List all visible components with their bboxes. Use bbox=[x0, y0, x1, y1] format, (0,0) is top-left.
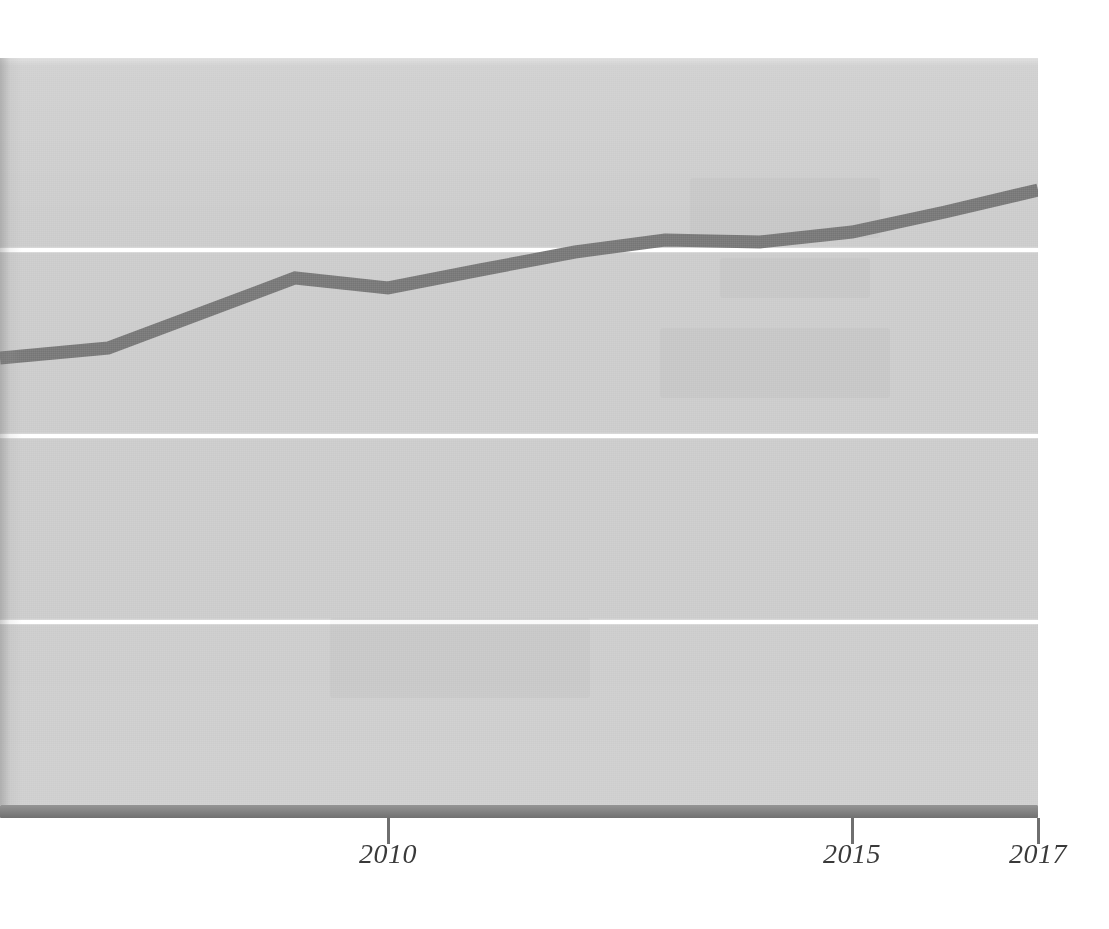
x-axis-bar bbox=[0, 805, 1038, 818]
data-series-line bbox=[0, 58, 1038, 805]
plot-area bbox=[0, 58, 1038, 805]
line-chart: 2010 2015 2017 bbox=[0, 0, 1109, 929]
x-tick-label-2015: 2015 bbox=[823, 838, 881, 870]
x-tick-label-2010: 2010 bbox=[359, 838, 417, 870]
series-polyline bbox=[0, 190, 1038, 358]
x-tick-label-2017: 2017 bbox=[1009, 838, 1067, 870]
